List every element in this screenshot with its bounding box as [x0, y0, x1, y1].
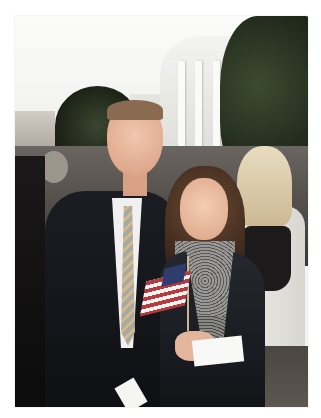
paper-program	[192, 335, 244, 366]
flagpole	[187, 256, 189, 331]
foreground-person-left	[15, 156, 45, 407]
column	[213, 61, 220, 156]
column	[195, 61, 202, 156]
photograph	[15, 16, 308, 407]
blonde-hair	[237, 146, 292, 226]
woman-face	[180, 178, 228, 240]
man-hair	[107, 100, 163, 120]
column	[178, 61, 185, 156]
